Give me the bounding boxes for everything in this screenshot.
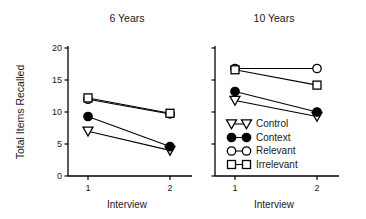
legend-item-context[interactable]: Context <box>227 132 290 143</box>
series-line <box>88 98 170 113</box>
series-relevant <box>88 99 170 114</box>
series-control <box>88 131 170 150</box>
open-circle-icon <box>313 64 321 72</box>
open-square-icon <box>166 109 174 117</box>
data-point <box>313 108 321 116</box>
figure-container: 6 Years0510152012Interview10 Years12Inte… <box>0 0 366 219</box>
filled-circle-icon <box>313 108 321 116</box>
x-tick-label: 2 <box>167 183 172 193</box>
data-point <box>231 87 239 95</box>
open-square-icon <box>231 66 239 74</box>
filled-circle-icon <box>84 112 92 120</box>
y-tick-label: 20 <box>52 43 62 53</box>
legend-label: Irrelevant <box>256 159 298 170</box>
panel-title: 6 Years <box>109 12 144 24</box>
y-tick-label: 10 <box>52 107 62 117</box>
x-tick-label: 2 <box>314 183 319 193</box>
y-axis-label: Total Items Recalled <box>14 65 26 160</box>
open-circle-icon <box>227 147 235 155</box>
data-point <box>84 112 92 120</box>
data-point <box>231 66 239 74</box>
open-square-icon <box>243 161 251 169</box>
legend-item-control[interactable]: Control <box>227 118 289 129</box>
legend-label: Context <box>256 132 291 143</box>
series-line <box>88 116 170 146</box>
open-circle-icon <box>242 147 250 155</box>
x-axis-label: Interview <box>107 199 148 210</box>
legend-marker-left <box>227 133 235 141</box>
data-point <box>166 142 174 150</box>
open-square-icon <box>313 81 321 89</box>
data-point <box>84 94 92 102</box>
data-point <box>313 64 321 72</box>
series-irrelevant <box>88 98 170 113</box>
legend-item-relevant[interactable]: Relevant <box>227 145 295 156</box>
data-point <box>313 81 321 89</box>
chart-svg: 6 Years0510152012Interview10 Years12Inte… <box>0 0 366 219</box>
x-tick-label: 1 <box>232 183 237 193</box>
legend-item-irrelevant[interactable]: Irrelevant <box>228 159 298 170</box>
series-line <box>88 99 170 114</box>
series-line <box>235 70 317 85</box>
panel-six-years: 6 Years0510152012Interview <box>52 12 192 210</box>
series-context <box>88 116 170 146</box>
legend-marker-right <box>242 147 250 155</box>
legend-marker-left <box>227 147 235 155</box>
series-line <box>88 131 170 150</box>
y-tick-label: 15 <box>52 75 62 85</box>
filled-circle-icon <box>166 142 174 150</box>
y-tick-label: 5 <box>57 139 62 149</box>
panel-ten-years: 10 Years12Interview <box>212 12 340 210</box>
legend: ControlContextRelevantIrrelevant <box>227 118 298 169</box>
legend-marker-right <box>243 161 251 169</box>
panel-title: 10 Years <box>254 12 295 24</box>
open-square-icon <box>228 161 236 169</box>
open-square-icon <box>84 94 92 102</box>
data-point <box>166 109 174 117</box>
x-axis-label: Interview <box>254 199 295 210</box>
x-tick-label: 1 <box>85 183 90 193</box>
series-irrelevant <box>235 70 317 85</box>
legend-label: Control <box>256 118 288 129</box>
y-tick-label: 0 <box>57 171 62 181</box>
filled-circle-icon <box>227 133 235 141</box>
legend-marker-left <box>228 161 236 169</box>
filled-circle-icon <box>231 87 239 95</box>
filled-circle-icon <box>242 133 250 141</box>
legend-label: Relevant <box>256 145 296 156</box>
legend-marker-right <box>242 133 250 141</box>
